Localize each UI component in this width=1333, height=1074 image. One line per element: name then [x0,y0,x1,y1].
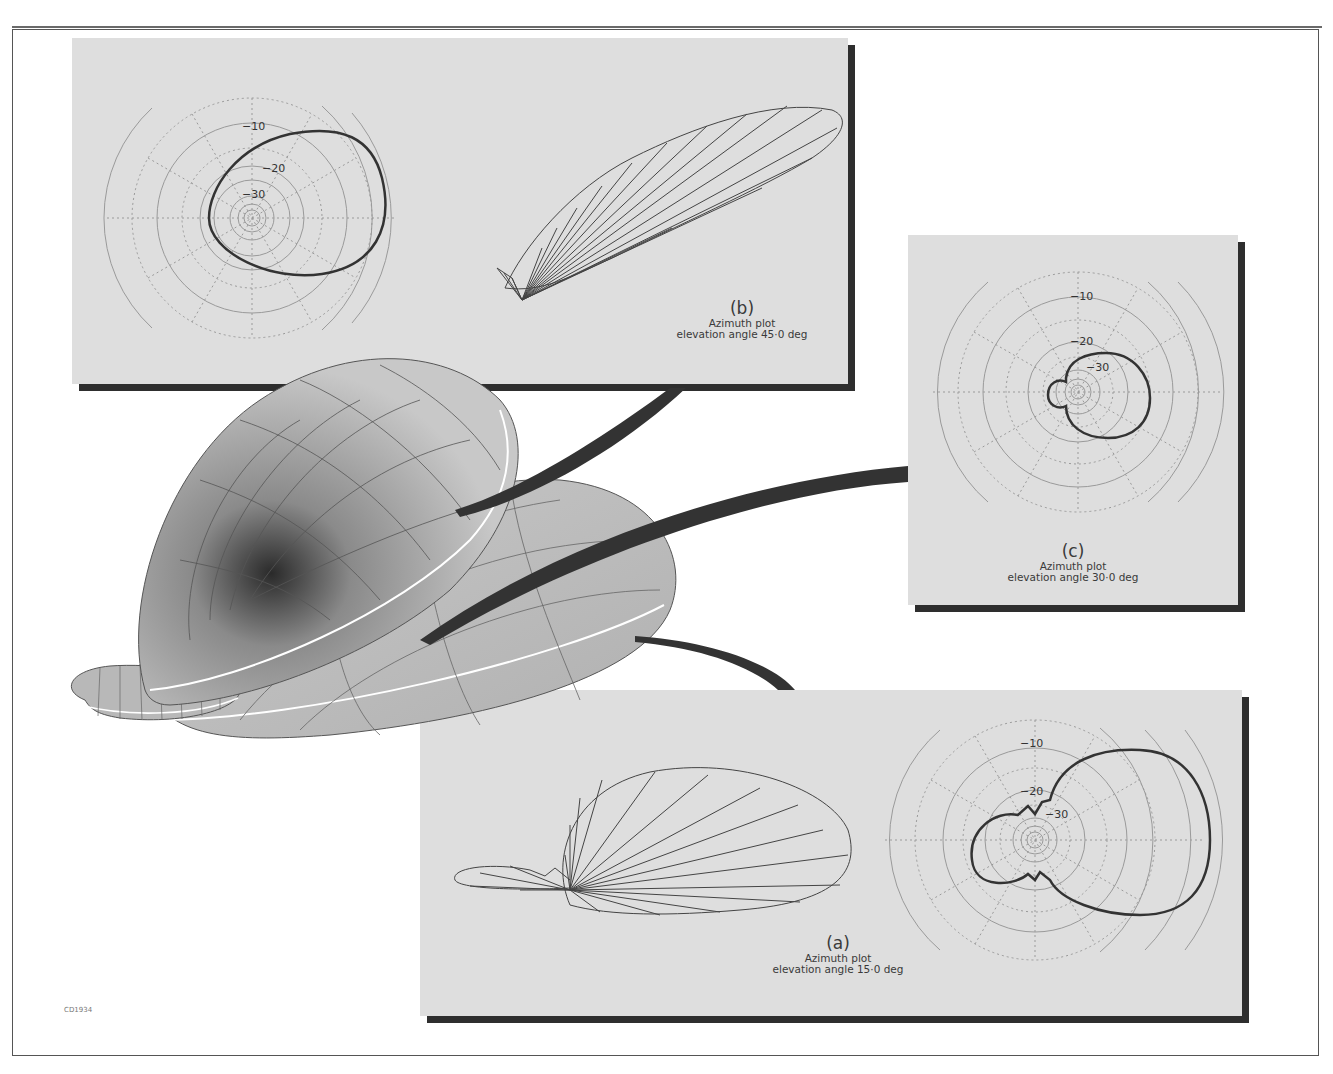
connector-a [635,636,795,690]
figure-id-label: CD1934 [64,1006,92,1014]
radiation-pattern-3d [0,0,1333,1074]
